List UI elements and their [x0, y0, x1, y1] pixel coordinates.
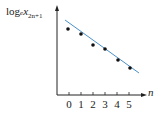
data-point [79, 32, 83, 36]
data-point [116, 58, 120, 62]
x-axis-label: n [148, 86, 154, 98]
x-tick-label: 1 [76, 98, 86, 110]
x-tick-label: 3 [100, 98, 110, 110]
ylabel-log: log [6, 5, 20, 17]
data-points [66, 27, 132, 70]
ylabel-subscript: 2n+1 [28, 12, 42, 20]
y-axis-arrow-icon [55, 5, 59, 11]
x-axis-arrow-icon [141, 93, 147, 97]
data-point [91, 43, 95, 47]
y-axis-label: logex2n+1 [6, 5, 43, 17]
data-point [128, 66, 132, 70]
x-tick-label: 2 [88, 98, 98, 110]
x-tick-label: 5 [124, 98, 134, 110]
fit-line [65, 20, 139, 73]
data-point [103, 47, 107, 51]
data-point [66, 27, 70, 31]
x-tick-label: 0 [64, 98, 74, 110]
x-tick-label: 4 [112, 98, 122, 110]
